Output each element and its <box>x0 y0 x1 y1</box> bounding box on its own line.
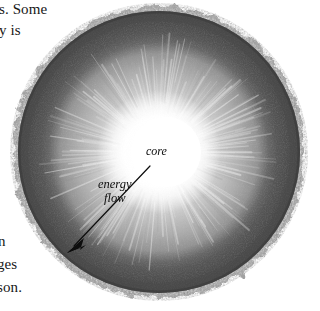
energy-flow-label: energy flow <box>98 177 132 205</box>
energy-flow-label-line1: energy <box>98 177 132 191</box>
energy-flow-label-line2: flow <box>98 191 132 205</box>
sun-cutaway-illustration: core energy flow <box>0 0 320 311</box>
figure-page: s. Some y is n ges son. <box>0 0 320 311</box>
core-label: core <box>146 145 167 158</box>
